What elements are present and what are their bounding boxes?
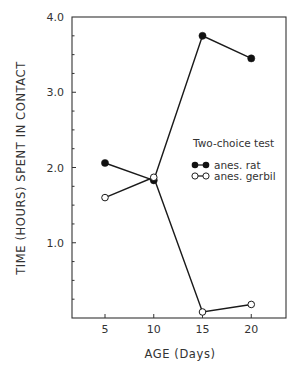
x-tick-label: 10 [147, 323, 161, 336]
x-tick-label: 5 [102, 323, 109, 336]
open-circle-marker-icon [203, 173, 209, 179]
y-tick-label: 3.0 [47, 86, 65, 99]
y-tick-label: 2.0 [47, 162, 65, 175]
filled-circle-marker-icon [248, 55, 255, 62]
open-circle-marker-icon [199, 309, 206, 316]
open-circle-marker-icon [192, 173, 198, 179]
filled-circle-marker-icon [192, 162, 199, 169]
x-tick-label: 20 [244, 323, 258, 336]
legend-title: Two-choice test [192, 137, 274, 149]
legend-item-gerbil: anes. gerbil [192, 170, 276, 182]
line-chart: 1.02.03.04.0 5101520 TIME (HOURS) SPENT … [0, 0, 300, 372]
x-tick-label: 15 [196, 323, 210, 336]
series-line-gerbil [105, 177, 251, 312]
x-axis-ticks [105, 314, 251, 318]
open-circle-marker-icon [102, 194, 109, 201]
y-axis-ticks [72, 36, 76, 299]
open-circle-marker-icon [248, 301, 255, 308]
x-axis-title: AGE (Days) [144, 347, 215, 361]
filled-circle-marker-icon [101, 159, 108, 166]
y-axis-tick-labels: 1.02.03.04.0 [47, 11, 65, 250]
open-circle-marker-icon [150, 174, 157, 181]
filled-circle-marker-icon [199, 32, 206, 39]
legend-label-gerbil: anes. gerbil [214, 170, 276, 182]
legend: Two-choice test anes. rat anes. gerbil [192, 137, 276, 182]
y-tick-label: 1.0 [47, 237, 65, 250]
x-axis-tick-labels: 5101520 [102, 323, 259, 336]
filled-circle-marker-icon [203, 162, 210, 169]
y-axis-title: TIME (HOURS) SPENT IN CONTACT [14, 61, 28, 276]
y-tick-label: 4.0 [47, 11, 65, 24]
